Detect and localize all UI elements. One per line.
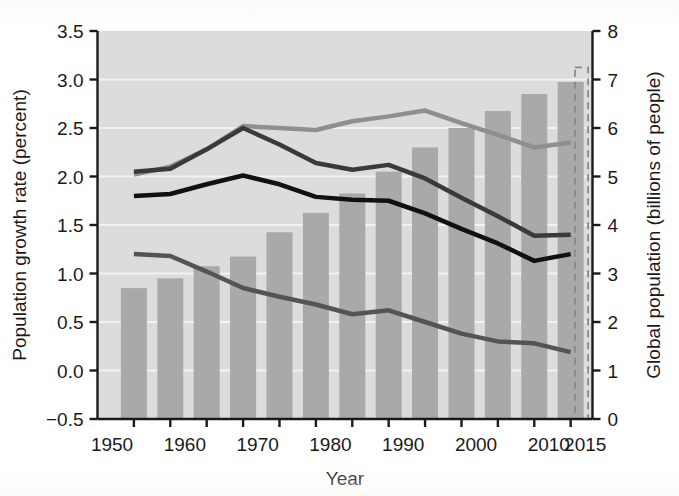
bar: [485, 111, 511, 419]
bar: [412, 147, 438, 419]
population-growth-chart: 3.53.02.52.01.51.00.50.0−0.5876543210195…: [0, 0, 679, 496]
y-tick-label-left: −0.5: [46, 409, 84, 430]
y-tick-label-right: 0: [608, 409, 619, 430]
x-tick-label: 1950: [91, 434, 133, 455]
y-tick-label-left: 0.5: [57, 312, 83, 333]
y-tick-label-left: 0.0: [57, 361, 83, 382]
x-tick-label: 1990: [382, 434, 424, 455]
x-tick-label: 1970: [237, 434, 279, 455]
y-tick-label-left: 1.5: [57, 215, 83, 236]
y-tick-label-right: 3: [608, 264, 619, 285]
x-axis-title: Year: [326, 468, 365, 489]
x-tick-label: 1960: [164, 434, 206, 455]
y-tick-label-right: 7: [608, 70, 619, 91]
figure-container: 3.53.02.52.01.51.00.50.0−0.5876543210195…: [0, 0, 679, 496]
y-tick-label-left: 3.0: [57, 70, 83, 91]
y-tick-label-right: 8: [608, 21, 619, 42]
bar: [230, 257, 256, 419]
bar: [303, 213, 329, 419]
bar: [157, 278, 183, 419]
bar: [558, 82, 584, 419]
bar: [376, 172, 402, 419]
y-axis-title-left: Population growth rate (percent): [9, 89, 30, 360]
x-tick-label: 1980: [309, 434, 351, 455]
bar: [266, 232, 292, 419]
y-tick-label-left: 1.0: [57, 264, 83, 285]
bar: [121, 288, 147, 419]
y-tick-label-right: 2: [608, 312, 619, 333]
y-tick-label-right: 5: [608, 167, 619, 188]
y-axis-title-right: Global population (billions of people): [643, 71, 664, 378]
y-tick-label-left: 3.5: [57, 21, 83, 42]
y-tick-label-right: 6: [608, 118, 619, 139]
y-tick-label-left: 2.0: [57, 167, 83, 188]
x-tick-label: 2015: [564, 434, 606, 455]
bar: [194, 266, 220, 419]
bar: [448, 128, 474, 419]
bar: [339, 193, 365, 419]
y-tick-label-right: 4: [608, 215, 619, 236]
y-tick-label-right: 1: [608, 361, 619, 382]
x-tick-label: 2000: [455, 434, 497, 455]
y-tick-label-left: 2.5: [57, 118, 83, 139]
